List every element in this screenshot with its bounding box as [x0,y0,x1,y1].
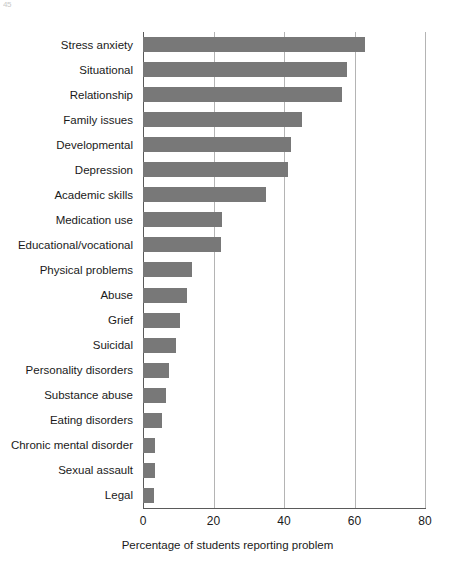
bar [143,313,180,328]
category-label: Physical problems [0,264,138,276]
bar [143,488,154,503]
bar [143,363,169,378]
bar [143,87,342,102]
gridline-80 [425,32,426,508]
bar [143,237,221,252]
category-label: Eating disorders [0,414,138,426]
bar-row [143,433,425,458]
category-label: Grief [0,314,138,326]
bar [143,187,266,202]
x-tick-label-60: 60 [335,514,375,528]
bar [143,288,187,303]
category-label: Medication use [0,214,138,226]
bar-row [143,207,425,232]
category-label: Substance abuse [0,389,138,401]
category-label: Suicidal [0,339,138,351]
bar [143,262,192,277]
bar-row [143,358,425,383]
bar-row [143,458,425,483]
bar [143,438,155,453]
category-label: Stress anxiety [0,39,138,51]
x-tick-label-0: 0 [123,514,163,528]
bar-row [143,308,425,333]
bar [143,112,302,127]
bar-row [143,333,425,358]
category-label: Developmental [0,139,138,151]
bar [143,463,155,478]
bar [143,137,291,152]
bar-row [143,383,425,408]
category-label: Situational [0,64,138,76]
bar [143,338,176,353]
bar-row [143,257,425,282]
bar-chart: 020406080 Stress anxietySituationalRelat… [0,0,455,575]
bar-row [143,232,425,257]
x-axis-line [143,508,426,509]
bar-row [143,57,425,82]
category-label: Depression [0,164,138,176]
x-tick-label-20: 20 [194,514,234,528]
bar-row [143,82,425,107]
bar-row [143,283,425,308]
bar-row [143,107,425,132]
bar [143,212,222,227]
category-label: Sexual assault [0,464,138,476]
bar [143,37,365,52]
bar-row [143,408,425,433]
bar [143,62,347,77]
x-axis-title: Percentage of students reporting problem [0,538,455,552]
bar-row [143,483,425,508]
x-tick-label-40: 40 [264,514,304,528]
category-label: Legal [0,489,138,501]
x-tick-label-80: 80 [405,514,445,528]
bar-row [143,32,425,57]
category-label: Relationship [0,89,138,101]
category-label: Chronic mental disorder [0,439,138,451]
bar-row [143,182,425,207]
category-label: Academic skills [0,189,138,201]
category-label: Educational/vocational [0,239,138,251]
bar [143,388,166,403]
bar-row [143,132,425,157]
category-label: Family issues [0,114,138,126]
bar-row [143,157,425,182]
chart-page: 45 020406080 Stress anxietySituationalRe… [0,0,455,575]
category-label: Personality disorders [0,364,138,376]
category-label: Abuse [0,289,138,301]
bar [143,413,162,428]
bar [143,162,288,177]
